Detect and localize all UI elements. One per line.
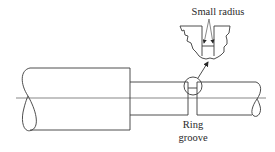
ring-groove <box>188 82 197 115</box>
large-shaft-section <box>22 68 130 131</box>
small-radius-leader-right <box>209 19 213 43</box>
detail-leader-arrow <box>198 62 208 78</box>
shaft-break-right <box>252 82 261 116</box>
shaft-break-left <box>22 68 36 131</box>
small-radius-label: Small radius <box>192 6 245 17</box>
ring-groove-label-line1: Ring <box>183 119 204 130</box>
detail-circle <box>184 77 202 95</box>
reduced-shaft-section <box>130 82 261 116</box>
ring-groove-label-line2: groove <box>178 132 207 143</box>
small-radius-leader-left <box>204 19 209 43</box>
shaft-diagram: Small radius Ring groove <box>0 0 275 152</box>
groove-detail-view <box>180 19 230 59</box>
